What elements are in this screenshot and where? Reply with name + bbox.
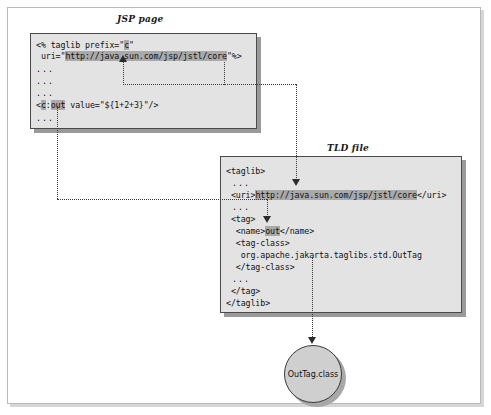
tld-tagclass-close: </tag-class> [226, 262, 295, 273]
jsp-ellipsis-1: ... [36, 64, 54, 75]
tld-tag-close: </tag> [226, 286, 260, 297]
jsp-ellipsis-4: ... [36, 113, 54, 124]
jsp-ellipsis-3: ... [36, 88, 54, 99]
jsp-code-line-1-prefix: <% taglib prefix=" [36, 40, 124, 50]
jsp-code-line-2-prefix: uri=" [36, 51, 65, 61]
connector-uri-segment-down-b [296, 84, 297, 180]
tld-name-prefix: <name> [226, 226, 265, 236]
connector-uri-segment-right [224, 84, 296, 85]
connector-prefix-arrowhead-up [119, 55, 127, 62]
connector-out-segment-down [57, 106, 58, 199]
jsp-code-line-out: <c:out value="${1+2+3}"/> [36, 100, 158, 111]
jsp-uri-highlight: http://java.sun.com/jsp/jstl/core [65, 51, 227, 61]
tld-ellipsis-2: ... [232, 202, 250, 213]
tld-uri-suffix: </uri> [417, 190, 446, 200]
tld-uri-highlight: http://java.sun.com/jsp/jstl/core [255, 190, 417, 200]
jsp-code-line-1: <% taglib prefix="c" [36, 40, 134, 51]
jsp-out-name-highlight: out [51, 100, 66, 110]
jsp-code-line-2-suffix: "%> [227, 51, 242, 61]
class-node-label: OutTag.class [288, 370, 338, 379]
tld-name-line: <name>out</name> [226, 226, 314, 237]
connector-out-arrowhead [263, 216, 271, 223]
tld-name-highlight: out [265, 226, 280, 236]
connector-prefix-segment-down [123, 62, 124, 85]
connector-out-segment-right [57, 199, 267, 200]
tld-tag-open: <tag> [226, 214, 255, 225]
tld-tagclass-value: org.apache.jakarta.taglibs.std.OutTag [226, 250, 422, 261]
diagram-canvas: JSP page <% taglib prefix="c" uri="http:… [0, 0, 491, 415]
tld-panel-label: TLD file [327, 143, 369, 153]
tld-taglib-close: </taglib> [226, 298, 270, 309]
class-node: OutTag.class [284, 345, 342, 403]
jsp-code-line-2: uri="http://java.sun.com/jsp/jstl/core"%… [36, 51, 242, 62]
connector-out-segment-down-b [267, 199, 268, 217]
jsp-out-colon: : [46, 100, 51, 110]
tld-name-suffix: </name> [280, 226, 314, 236]
connector-class-arrowhead [308, 337, 316, 344]
connector-prefix-segment-right [123, 84, 224, 85]
jsp-panel-label: JSP page [117, 14, 163, 24]
jsp-ellipsis-2: ... [36, 76, 54, 87]
connector-uri-arrowhead [292, 179, 300, 186]
tld-tagclass-open: <tag-class> [226, 238, 290, 249]
tld-ellipsis-1: ... [232, 178, 250, 189]
jsp-code-line-1-suffix: " [129, 40, 134, 50]
connector-uri-segment-down-a [224, 62, 225, 85]
jsp-out-suffix: value="${1+2+3}"/> [65, 100, 158, 110]
tld-ellipsis-3: ... [232, 274, 250, 285]
connector-class-segment-down [312, 257, 313, 339]
tld-taglib-open: <taglib> [226, 166, 265, 177]
